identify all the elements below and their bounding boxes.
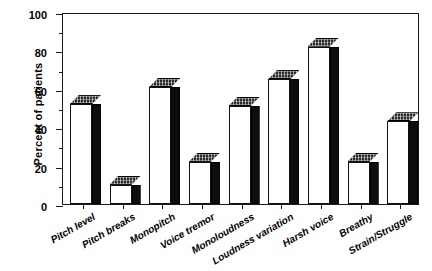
bar-front-face: [189, 162, 211, 204]
bar-top-face: [268, 70, 299, 79]
y-axis-tick-label: 60: [35, 86, 47, 98]
bar-top-face: [70, 95, 101, 104]
y-axis-tick: 20: [56, 168, 63, 169]
bar-side-face: [171, 87, 180, 204]
bar-side-face: [132, 185, 141, 204]
bar: [229, 97, 260, 204]
bar-side-face: [211, 162, 220, 204]
bar: [387, 112, 418, 204]
bar: [149, 78, 180, 204]
bar-front-face: [70, 104, 92, 204]
bar-side-face: [92, 104, 101, 204]
bar-side-face: [251, 106, 260, 204]
chart-figure: Percent of patients 020406080100 Pitch l…: [0, 0, 432, 271]
bar: [110, 176, 141, 204]
bar-side-face: [370, 162, 379, 204]
bar-side-face: [409, 121, 418, 204]
bar-front-face: [308, 47, 330, 204]
bar: [189, 153, 220, 204]
bar-top-face: [229, 97, 260, 106]
bar-top-face: [348, 153, 379, 162]
bar-top-face: [189, 153, 220, 162]
y-axis-tick: 40: [56, 129, 63, 130]
y-axis-tick-label: 40: [35, 124, 47, 136]
y-axis-tick: 60: [56, 91, 63, 92]
bar-top-face: [110, 176, 141, 185]
bar-top-face: [387, 112, 418, 121]
bar: [268, 70, 299, 204]
bar-front-face: [149, 87, 171, 204]
bar: [348, 153, 379, 204]
y-axis-tick-label: 100: [29, 9, 47, 21]
bar-side-face: [330, 47, 339, 204]
bar: [308, 38, 339, 204]
bar-side-face: [290, 79, 299, 204]
bar-front-face: [348, 162, 370, 204]
y-axis-tick: 80: [56, 52, 63, 53]
bar-front-face: [268, 79, 290, 204]
y-axis-tick-label: 80: [35, 47, 47, 59]
y-axis-minor-tick: [59, 187, 63, 188]
y-axis-tick: 100: [56, 14, 63, 15]
y-axis-minor-tick: [59, 33, 63, 34]
bar-front-face: [387, 121, 409, 204]
y-axis-tick: 0: [56, 206, 63, 207]
y-axis-minor-tick: [59, 148, 63, 149]
plot-area: 020406080100: [62, 13, 419, 205]
bar-top-face: [308, 38, 339, 47]
bar: [70, 95, 101, 204]
bar-front-face: [110, 185, 132, 204]
x-axis-labels: Pitch levelPitch breaksMonopitchVoice tr…: [62, 209, 419, 271]
y-axis-minor-tick: [59, 72, 63, 73]
y-axis-tick-label: 20: [35, 163, 47, 175]
y-axis-minor-tick: [59, 110, 63, 111]
bar-top-face: [149, 78, 180, 87]
bar-front-face: [229, 106, 251, 204]
y-axis-tick-label: 0: [41, 201, 47, 213]
